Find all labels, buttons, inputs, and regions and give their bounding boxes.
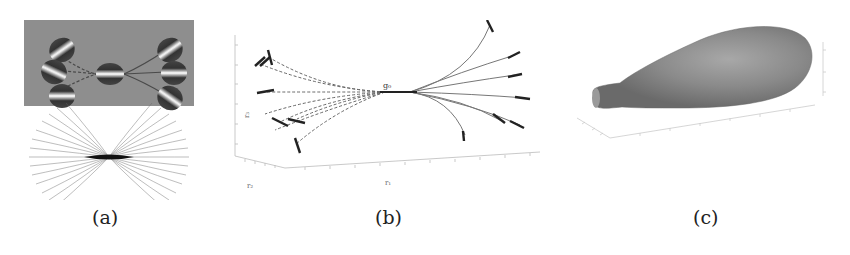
caption-c: (c) xyxy=(693,206,718,228)
teardrop-surface xyxy=(593,26,812,108)
panel-b: g₀ r₃ r₂ r₁ xyxy=(225,20,550,200)
caption-a: (a) xyxy=(92,206,118,228)
gabor-patch xyxy=(161,61,187,85)
teardrop-surface-3d xyxy=(560,20,850,200)
y-axis-label: r₂ xyxy=(247,182,253,190)
bowtie-center xyxy=(84,155,134,160)
dashed-trajectories xyxy=(260,58,385,145)
panel-c xyxy=(560,20,850,200)
gabor-patch-center xyxy=(96,63,124,85)
gabor-association-field xyxy=(24,20,194,200)
bowtie-fan xyxy=(29,103,189,200)
end-bars xyxy=(255,20,530,153)
z-axis-label: r₃ xyxy=(243,112,251,118)
axes xyxy=(235,35,540,170)
origin-label: g₀ xyxy=(383,81,391,90)
surface-end-cap xyxy=(592,88,600,108)
gabor-patch xyxy=(49,84,75,108)
panel-a xyxy=(24,20,194,200)
x-axis-label: r₁ xyxy=(385,179,391,187)
trajectory-plot-3d: g₀ r₃ r₂ r₁ xyxy=(225,20,550,200)
caption-b: (b) xyxy=(375,206,402,228)
solid-trajectories xyxy=(410,25,525,135)
